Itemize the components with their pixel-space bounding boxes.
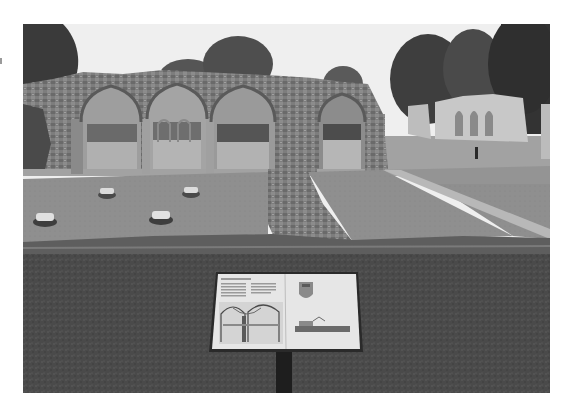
photo-scene [23, 24, 550, 393]
edge-mark [0, 58, 2, 64]
interpretive-sign [209, 272, 363, 352]
sign-post [276, 349, 292, 393]
gothic-arcade [23, 70, 388, 174]
abbey-ruins-photo [23, 24, 550, 393]
heraldic-crest-drawing [299, 282, 313, 298]
vaulted-undercroft-drawing [219, 302, 283, 344]
